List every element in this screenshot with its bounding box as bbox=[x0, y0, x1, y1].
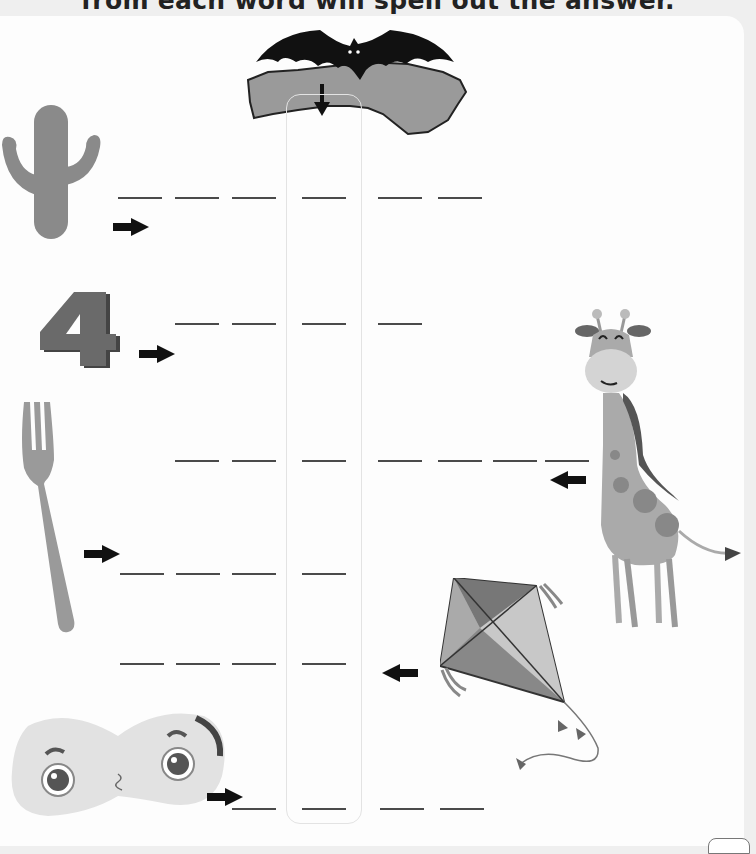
letter-blank[interactable] bbox=[175, 323, 219, 325]
letter-blank[interactable] bbox=[438, 460, 482, 462]
letter-blank[interactable] bbox=[493, 460, 537, 462]
cactus-picture bbox=[0, 105, 110, 240]
kite-picture bbox=[440, 578, 640, 778]
letter-blank[interactable] bbox=[118, 197, 162, 199]
peanut-face-picture bbox=[8, 706, 230, 818]
page-corner-tab bbox=[708, 838, 750, 854]
letter-blank[interactable] bbox=[378, 323, 422, 325]
letter-blank[interactable] bbox=[176, 663, 220, 665]
letter-blank-highlighted[interactable] bbox=[302, 460, 346, 462]
right-arrow-icon bbox=[84, 545, 120, 563]
letter-blank[interactable] bbox=[232, 323, 276, 325]
letter-blank[interactable] bbox=[176, 573, 220, 575]
answer-column bbox=[286, 94, 362, 824]
fork-picture bbox=[20, 402, 100, 634]
right-arrow-icon bbox=[207, 788, 243, 806]
letter-blank-highlighted[interactable] bbox=[302, 573, 346, 575]
letter-blank[interactable] bbox=[380, 808, 424, 810]
letter-blank[interactable] bbox=[440, 808, 484, 810]
letter-blank[interactable] bbox=[545, 460, 589, 462]
letter-blank[interactable] bbox=[232, 663, 276, 665]
letter-blank[interactable] bbox=[175, 460, 219, 462]
letter-blank[interactable] bbox=[378, 460, 422, 462]
letter-blank[interactable] bbox=[120, 573, 164, 575]
letter-blank-highlighted[interactable] bbox=[302, 197, 346, 199]
left-arrow-icon bbox=[382, 664, 418, 682]
letter-blank-highlighted[interactable] bbox=[302, 663, 346, 665]
letter-blank[interactable] bbox=[232, 460, 276, 462]
letter-blank[interactable] bbox=[175, 197, 219, 199]
letter-blank[interactable] bbox=[232, 197, 276, 199]
number-four-picture bbox=[38, 290, 128, 370]
letter-blank[interactable] bbox=[232, 573, 276, 575]
letter-blank[interactable] bbox=[232, 808, 276, 810]
right-arrow-icon bbox=[139, 345, 175, 363]
letter-blank[interactable] bbox=[120, 663, 164, 665]
letter-blank-highlighted[interactable] bbox=[302, 323, 346, 325]
right-arrow-icon bbox=[113, 218, 149, 236]
letter-blank-highlighted[interactable] bbox=[302, 808, 346, 810]
letter-blank[interactable] bbox=[378, 197, 422, 199]
letter-blank[interactable] bbox=[438, 197, 482, 199]
instruction-text: from each word will spell out the answer… bbox=[0, 0, 756, 15]
left-arrow-icon bbox=[550, 471, 586, 489]
